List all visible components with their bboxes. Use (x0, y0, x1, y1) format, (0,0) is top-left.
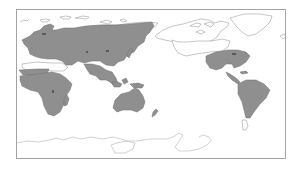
map-canvas (0, 0, 301, 174)
world-distribution-map (0, 0, 301, 174)
